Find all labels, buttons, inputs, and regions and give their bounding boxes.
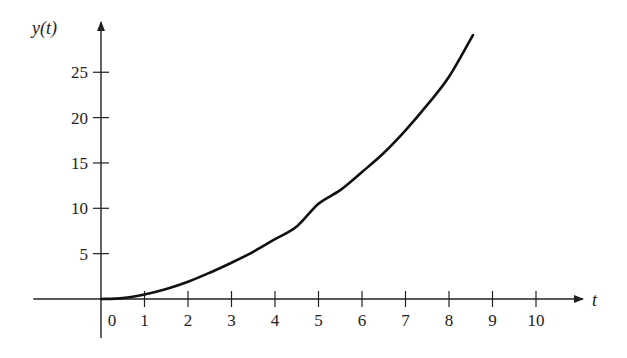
chart-canvas: 012345678910 510152025 t y(t) <box>0 0 627 358</box>
y-axis-label: y(t) <box>30 18 57 39</box>
y-tick-label: 25 <box>71 63 88 82</box>
x-tick-label: 9 <box>488 311 497 330</box>
x-tick-label: 10 <box>528 311 545 330</box>
y-tick-label: 20 <box>71 109 88 128</box>
x-tick-label: 4 <box>271 311 280 330</box>
y-tick-label: 15 <box>71 154 88 173</box>
data-series <box>101 35 473 299</box>
x-axis-ticks: 012345678910 <box>108 291 545 330</box>
curve-y-of-t <box>101 35 473 299</box>
x-tick-label: 8 <box>445 311 454 330</box>
x-tick-label: 0 <box>108 311 117 330</box>
x-tick-label: 6 <box>358 311 367 330</box>
x-tick-label: 2 <box>184 311 193 330</box>
x-axis-label: t <box>592 290 598 310</box>
y-axis-ticks: 510152025 <box>71 63 109 263</box>
x-tick-label: 5 <box>314 311 323 330</box>
y-tick-label: 10 <box>71 199 88 218</box>
y-tick-label: 5 <box>80 245 89 264</box>
x-tick-label: 3 <box>227 311 236 330</box>
x-tick-label: 1 <box>140 311 149 330</box>
x-tick-label: 7 <box>401 311 410 330</box>
